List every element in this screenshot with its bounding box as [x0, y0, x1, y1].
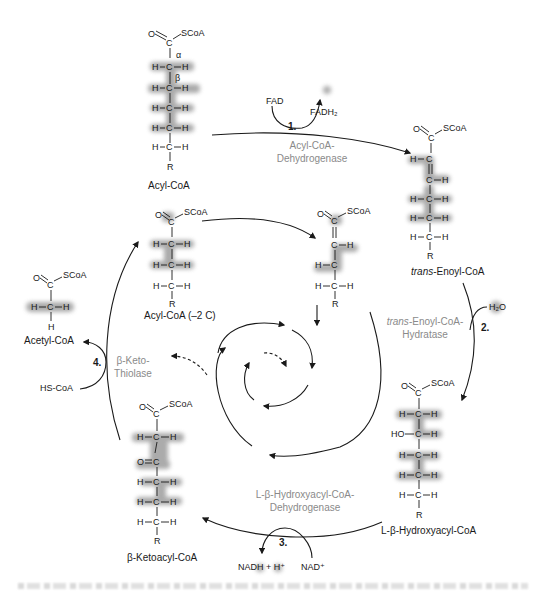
svg-text:O: O [317, 209, 324, 219]
enzyme-1-line1: Acyl-CoA- [262, 139, 362, 152]
svg-text:H: H [182, 123, 189, 133]
svg-text:C: C [47, 302, 54, 312]
svg-text:H: H [399, 490, 406, 500]
enzyme-1-line2: Dehydrogenase [262, 152, 362, 165]
svg-text:H: H [431, 470, 438, 480]
svg-text:R: R [169, 299, 176, 309]
svg-text:H: H [137, 517, 144, 527]
svg-text:C: C [331, 240, 338, 250]
svg-text:C: C [168, 260, 175, 270]
svg-text:H: H [152, 123, 159, 133]
svg-text:SCoA: SCoA [347, 206, 371, 216]
molecule-hydroxyacyl-coa: O C SCoA H C H HO C H H C H H C H H C H … [391, 378, 455, 520]
svg-text:H: H [431, 490, 438, 500]
svg-text:H: H [442, 194, 449, 204]
svg-text:C: C [153, 497, 160, 507]
svg-text:C: C [166, 123, 173, 133]
svg-text:HO: HO [391, 429, 405, 439]
svg-text:C: C [415, 490, 422, 500]
label-hydroxyacyl-coa: L-β-Hydroxyacyl-CoA [381, 525, 476, 537]
cofactor-h2o: H₂O [489, 302, 506, 312]
svg-text:C: C [426, 194, 433, 204]
svg-text:C: C [153, 457, 160, 467]
molecule-trans-enoyl-coa: O C SCoA H C C H H C H H C H H C H R [410, 123, 467, 261]
svg-text:C: C [415, 429, 422, 439]
central-spiral [172, 312, 381, 456]
svg-text:H: H [442, 232, 449, 242]
svg-text:H: H [399, 450, 406, 460]
svg-text:R: R [416, 510, 423, 520]
label-acyl-coa: Acyl-CoA [148, 180, 190, 192]
label-enoyl-rest: -Enoyl-CoA [433, 266, 484, 277]
enzyme-4-line2: Thiolase [108, 367, 158, 380]
enzyme-2-line1: trans-Enoyl-CoA- [380, 315, 470, 328]
svg-text:C: C [153, 409, 160, 419]
svg-text:H: H [182, 83, 189, 93]
svg-text:β: β [175, 73, 180, 83]
svg-text:O: O [33, 273, 40, 283]
enzyme-2-line2: Hydratase [380, 328, 470, 341]
svg-text:C: C [168, 217, 175, 227]
svg-text:H: H [347, 240, 354, 250]
svg-text:H: H [182, 62, 189, 72]
step-number-2: 2. [481, 322, 489, 333]
svg-text:H: H [31, 302, 38, 312]
svg-text:H: H [182, 103, 189, 113]
svg-text:C: C [166, 103, 173, 113]
svg-text:H: H [442, 175, 449, 185]
svg-text:H: H [410, 194, 417, 204]
svg-text:C: C [415, 409, 422, 419]
enzyme-3-line1: L-β-Hydroxyacyl-CoA- [240, 488, 370, 501]
svg-text:H: H [182, 142, 189, 152]
svg-text:C: C [166, 83, 173, 93]
enzyme-3-line2: Dehydrogenase [240, 501, 370, 514]
svg-text:H: H [170, 477, 177, 487]
svg-text:C: C [331, 260, 338, 270]
svg-text:O: O [148, 29, 155, 39]
svg-text:C: C [166, 142, 173, 152]
enzyme-enoyl-coa-hydratase: trans-Enoyl-CoA- Hydratase [380, 315, 470, 341]
svg-text:R: R [167, 162, 174, 172]
svg-text:H: H [431, 409, 438, 419]
step-number-3: 3. [279, 537, 287, 548]
cofactor-hs-coa: HS-CoA [40, 383, 73, 393]
svg-text:H: H [431, 429, 438, 439]
svg-text:H: H [399, 470, 406, 480]
svg-text:H: H [170, 497, 177, 507]
svg-text:H: H [184, 239, 191, 249]
svg-text:C: C [331, 281, 338, 291]
svg-text:H: H [315, 281, 322, 291]
svg-text:O: O [155, 210, 162, 220]
svg-text:C: C [426, 175, 433, 185]
molecule-acyl-coa-minus-2c: O C SCoA H C H H C H H C H R [153, 207, 208, 309]
enzyme-4-line1: β-Keto- [108, 354, 158, 367]
svg-text:H: H [153, 260, 160, 270]
label-trans-italic: trans [411, 266, 433, 277]
svg-text:H: H [137, 477, 144, 487]
svg-text:SCoA: SCoA [184, 207, 208, 217]
svg-text:O: O [137, 457, 144, 467]
cofactor-nadh: NADH + H⁺ [238, 562, 285, 572]
svg-text:H: H [152, 103, 159, 113]
svg-text:C: C [166, 62, 173, 72]
svg-text:H: H [152, 83, 159, 93]
svg-text:C: C [168, 281, 175, 291]
svg-text:H: H [442, 213, 449, 223]
molecule-ketoacyl-coa: O C SCoA H C H O C H C H H C H H C H R [137, 399, 193, 546]
svg-text:H: H [137, 432, 144, 442]
svg-text:O: O [401, 381, 408, 391]
svg-text:R: R [332, 299, 339, 309]
svg-text:H: H [410, 154, 417, 164]
step-number-1: 1. [288, 121, 296, 132]
enzyme-2-italic: trans [387, 316, 409, 327]
svg-text:O: O [413, 124, 420, 134]
enzyme-beta-keto-thiolase: β-Keto- Thiolase [108, 354, 158, 380]
blurred-caption [18, 583, 528, 589]
step-number-4: 4. [93, 357, 101, 368]
svg-text:C: C [331, 216, 338, 226]
svg-text:C: C [426, 232, 433, 242]
molecule-center-intermediate: O C SCoA C H H C H C H R [315, 206, 371, 309]
svg-text:H: H [347, 281, 354, 291]
cofactor-fad: FAD [266, 96, 284, 106]
svg-text:C: C [166, 38, 173, 48]
